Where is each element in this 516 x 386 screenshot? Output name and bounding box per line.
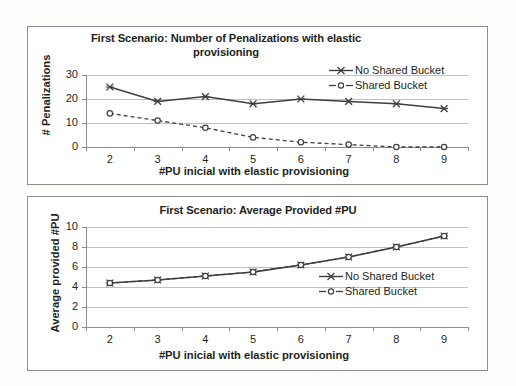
x-axis-tick [420, 327, 421, 331]
x-axis-tick-label: 3 [143, 153, 173, 165]
data-point [203, 273, 208, 278]
data-point [107, 111, 112, 116]
x-axis-tick-label: 6 [286, 333, 316, 345]
x-axis-tick [229, 327, 230, 331]
legend-label-shared-bucket: Shared Bucket [345, 284, 417, 299]
x-axis-title-top: #PU inicial with elastic provisioning [84, 165, 424, 177]
x-axis-tick-label: 9 [429, 333, 459, 345]
x-axis-tick-label: 7 [334, 153, 364, 165]
x-axis-tick-label: 4 [190, 333, 220, 345]
chart-panel-average-provided-pu: First Scenario: Average Provided #PU Ave… [27, 196, 488, 371]
x-axis-tick [468, 147, 469, 151]
data-point [106, 84, 114, 91]
x-axis-tick-label: 4 [190, 153, 220, 165]
y-axis-tick-label: 8 [50, 240, 78, 252]
x-axis-tick-label: 3 [143, 333, 173, 345]
x-axis-tick [325, 327, 326, 331]
y-axis-tick-label: 2 [50, 300, 78, 312]
data-point [346, 254, 351, 259]
x-axis-tick-label: 8 [381, 153, 411, 165]
data-point [346, 142, 351, 147]
x-axis-tick [134, 327, 135, 331]
data-point [107, 280, 112, 285]
y-axis-tick-label: 20 [50, 92, 78, 104]
x-axis-tick-label: 6 [286, 153, 316, 165]
data-point [440, 105, 448, 112]
data-point [250, 269, 255, 274]
x-axis-tick [182, 327, 183, 331]
legend-label-no-shared-bucket: No Shared Bucket [345, 269, 434, 284]
x-axis-tick [373, 327, 374, 331]
chart-title-top: First Scenario: Number of Penalizations … [76, 31, 376, 59]
x-axis-tick [325, 147, 326, 151]
y-axis-tick-label: 0 [50, 140, 78, 152]
legend-key-dashed-circle-icon [318, 284, 344, 299]
x-axis-tick-label: 2 [95, 333, 125, 345]
data-point [394, 244, 399, 249]
legend-label-shared-bucket: Shared Bucket [355, 78, 427, 93]
data-point [249, 100, 257, 107]
legend-key-solid-x-icon [318, 269, 344, 284]
data-point [203, 125, 208, 130]
legend-key-solid-x-icon [328, 63, 354, 78]
data-point [441, 144, 446, 149]
data-point [298, 140, 303, 145]
data-point [154, 98, 162, 105]
x-axis-tick-label: 5 [238, 333, 268, 345]
y-axis-tick-label: 10 [50, 116, 78, 128]
data-point [298, 262, 303, 267]
x-axis-tick [229, 147, 230, 151]
x-axis-tick [86, 327, 87, 331]
y-axis-tick-label: 0 [50, 320, 78, 332]
y-axis-tick-label: 6 [50, 260, 78, 272]
x-axis-title-bottom: #PU inicial with elastic provisioning [84, 349, 424, 361]
x-axis-tick [277, 147, 278, 151]
data-point [441, 233, 446, 238]
data-point [345, 98, 353, 105]
data-point [297, 96, 305, 103]
legend-key-dashed-circle-icon [328, 78, 354, 93]
x-axis-tick [468, 327, 469, 331]
data-point [201, 93, 209, 100]
data-point [155, 277, 160, 282]
x-axis-tick-label: 7 [334, 333, 364, 345]
x-axis-tick-label: 9 [429, 153, 459, 165]
y-axis-tick-label: 30 [50, 68, 78, 80]
x-axis-tick [134, 147, 135, 151]
x-axis-tick-label: 8 [381, 333, 411, 345]
x-axis-tick [373, 147, 374, 151]
data-point [392, 100, 400, 107]
legend-label-no-shared-bucket: No Shared Bucket [355, 63, 444, 78]
x-axis-tick-label: 5 [238, 153, 268, 165]
x-axis-tick [420, 147, 421, 151]
x-axis-tick [86, 147, 87, 151]
chart-panel-penalizations: First Scenario: Number of Penalizations … [27, 26, 488, 185]
x-axis-tick [277, 327, 278, 331]
data-point [155, 118, 160, 123]
chart-title-bottom: First Scenario: Average Provided #PU [108, 203, 408, 217]
y-axis-tick-label: 4 [50, 280, 78, 292]
data-point [394, 144, 399, 149]
y-axis-tick-label: 10 [50, 220, 78, 232]
data-point [250, 135, 255, 140]
x-axis-tick [182, 147, 183, 151]
x-axis-tick-label: 2 [95, 153, 125, 165]
